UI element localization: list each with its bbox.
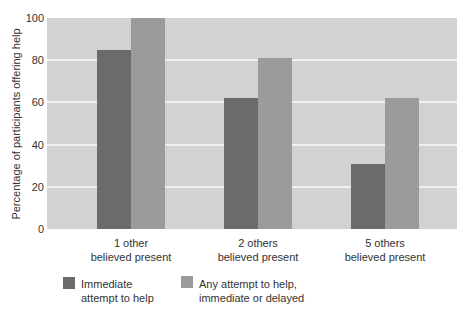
bar: [258, 58, 292, 229]
x-category-label: 1 otherbelieved present: [76, 236, 186, 264]
plot-area: [47, 18, 457, 229]
y-tick-label: 80: [14, 54, 44, 66]
x-category-label: 2 othersbelieved present: [203, 236, 313, 264]
legend-label-any: Any attempt to help, immediate or delaye…: [199, 277, 304, 305]
bar: [131, 18, 165, 229]
y-tick-label: 0: [14, 223, 44, 235]
y-tick-label: 100: [14, 12, 44, 24]
bar: [385, 98, 419, 229]
legend-swatch-any: [181, 276, 193, 288]
bar: [351, 164, 385, 229]
y-tick-label: 20: [14, 181, 44, 193]
y-tick-label: 40: [14, 139, 44, 151]
legend-swatch-immediate: [63, 277, 75, 289]
x-category-label: 5 othersbelieved present: [330, 236, 440, 264]
y-tick-label: 60: [14, 96, 44, 108]
legend-label-immediate: Immediate attempt to help: [81, 277, 154, 305]
bar: [224, 98, 258, 229]
bar: [97, 50, 131, 229]
